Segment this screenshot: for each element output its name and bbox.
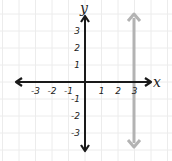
x-tick-label: -2 [48,86,57,96]
y-axis: y [79,0,89,151]
y-tick-label: -2 [71,111,80,121]
vertical-line-x-equals-3 [128,14,140,147]
y-tick-label: -3 [71,128,80,138]
x-tick-label: 1 [99,86,105,96]
x-tick-label: 2 [115,86,121,96]
coordinate-plane: x y -3-2-1123 321-1-2-3 [0,0,172,161]
x-tick-label: -3 [31,86,40,96]
y-tick-label: 1 [74,60,80,70]
y-axis-label: y [79,0,89,16]
x-tick-label: 3 [132,86,138,96]
y-tick-label: 3 [74,26,80,36]
x-axis-label: x [153,74,161,90]
y-tick-label: -1 [71,94,80,104]
y-tick-label: 2 [74,43,80,53]
